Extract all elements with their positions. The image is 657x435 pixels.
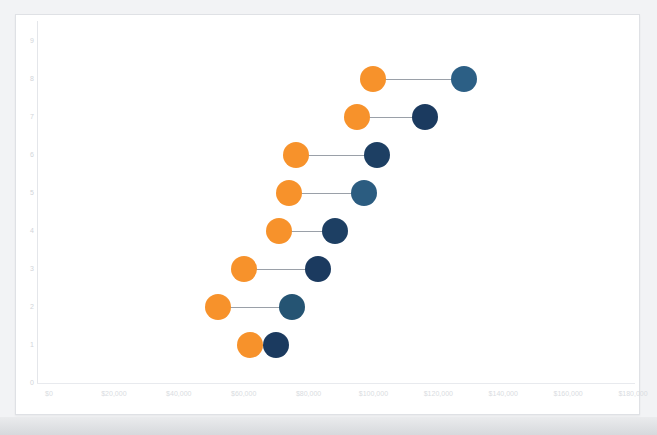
plot-area[interactable]: 0123456789 $0$20,000$40,000$60,000$80,00… xyxy=(16,15,639,414)
x-tick-2: $40,000 xyxy=(166,389,191,398)
start-dot[interactable] xyxy=(276,180,302,206)
page-bottom-strip xyxy=(0,417,657,435)
x-tick-8: $160,000 xyxy=(554,389,583,398)
x-tick-7: $140,000 xyxy=(489,389,518,398)
chart-card: 0123456789 $0$20,000$40,000$60,000$80,00… xyxy=(15,14,640,415)
end-dot[interactable] xyxy=(412,104,438,130)
y-tick-5: 5 xyxy=(16,189,34,197)
end-dot[interactable] xyxy=(279,294,305,320)
start-dot[interactable] xyxy=(266,218,292,244)
y-tick-7: 7 xyxy=(16,113,34,121)
start-dot[interactable] xyxy=(360,66,386,92)
x-tick-4: $80,000 xyxy=(296,389,321,398)
y-tick-1: 1 xyxy=(16,341,34,349)
end-dot[interactable] xyxy=(351,180,377,206)
y-axis-line xyxy=(37,21,38,383)
x-axis-line xyxy=(37,383,635,384)
y-tick-9: 9 xyxy=(16,37,34,45)
y-tick-3: 3 xyxy=(16,265,34,273)
y-tick-4: 4 xyxy=(16,227,34,235)
y-tick-0: 0 xyxy=(16,379,34,387)
y-tick-2: 2 xyxy=(16,303,34,311)
chart-screenshot: 0123456789 $0$20,000$40,000$60,000$80,00… xyxy=(0,0,657,435)
start-dot[interactable] xyxy=(205,294,231,320)
end-dot[interactable] xyxy=(451,66,477,92)
end-dot[interactable] xyxy=(305,256,331,282)
end-dot[interactable] xyxy=(364,142,390,168)
x-tick-6: $120,000 xyxy=(424,389,453,398)
y-tick-8: 8 xyxy=(16,75,34,83)
x-tick-0: $0 xyxy=(45,389,53,398)
y-tick-6: 6 xyxy=(16,151,34,159)
start-dot[interactable] xyxy=(344,104,370,130)
end-dot[interactable] xyxy=(263,332,289,358)
x-tick-3: $60,000 xyxy=(231,389,256,398)
end-dot[interactable] xyxy=(322,218,348,244)
start-dot[interactable] xyxy=(231,256,257,282)
x-tick-9: $180,000 xyxy=(618,389,647,398)
start-dot[interactable] xyxy=(283,142,309,168)
x-tick-5: $100,000 xyxy=(359,389,388,398)
x-tick-1: $20,000 xyxy=(101,389,126,398)
start-dot[interactable] xyxy=(237,332,263,358)
